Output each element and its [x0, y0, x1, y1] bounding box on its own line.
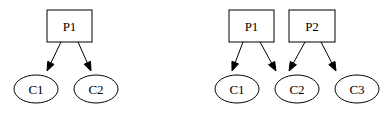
edge-line — [260, 42, 272, 63]
edge-line — [321, 42, 332, 63]
node-label: C2 — [289, 82, 304, 97]
edge-p1-c2 — [78, 42, 91, 71]
node-c3: C3 — [335, 75, 379, 103]
node-label: C1 — [229, 82, 244, 97]
edge-p1-c1 — [47, 42, 61, 71]
node-c2: C2 — [74, 75, 118, 103]
node-c1: C1 — [215, 75, 259, 103]
diagram-canvas: P1C1C2P1P2C1C2C3 — [0, 0, 383, 114]
edges-layer — [47, 42, 336, 71]
node-label: C2 — [88, 82, 103, 97]
graph-svg: P1C1C2P1P2C1C2C3 — [0, 0, 383, 114]
node-c2: C2 — [275, 75, 319, 103]
node-p2: P2 — [289, 10, 335, 42]
arrowhead-icon — [329, 61, 336, 71]
edge-line — [78, 42, 87, 63]
edge-p1-c1 — [232, 42, 243, 71]
node-p1: P1 — [229, 10, 274, 42]
node-label: C1 — [28, 82, 43, 97]
arrowhead-icon — [84, 61, 91, 71]
edge-p1-c2 — [260, 42, 276, 71]
node-c1: C1 — [14, 75, 58, 103]
node-label: C3 — [349, 82, 364, 97]
graph-right-edges — [232, 42, 336, 71]
arrowhead-icon — [289, 61, 296, 71]
arrowhead-icon — [47, 61, 54, 71]
node-label: P2 — [305, 19, 319, 34]
arrowhead-icon — [269, 61, 276, 71]
edge-line — [235, 42, 243, 63]
graph-left-nodes: P1C1C2 — [14, 10, 118, 103]
nodes-layer: P1C1C2P1P2C1C2C3 — [14, 10, 379, 103]
node-label: P1 — [245, 19, 259, 34]
node-label: P1 — [63, 19, 77, 34]
edge-p2-c3 — [321, 42, 336, 71]
arrowhead-icon — [232, 61, 239, 71]
node-p1: P1 — [47, 10, 92, 42]
edge-line — [51, 42, 61, 63]
graph-left-edges — [47, 42, 91, 71]
edge-p2-c2 — [289, 42, 305, 71]
edge-line — [293, 42, 305, 63]
